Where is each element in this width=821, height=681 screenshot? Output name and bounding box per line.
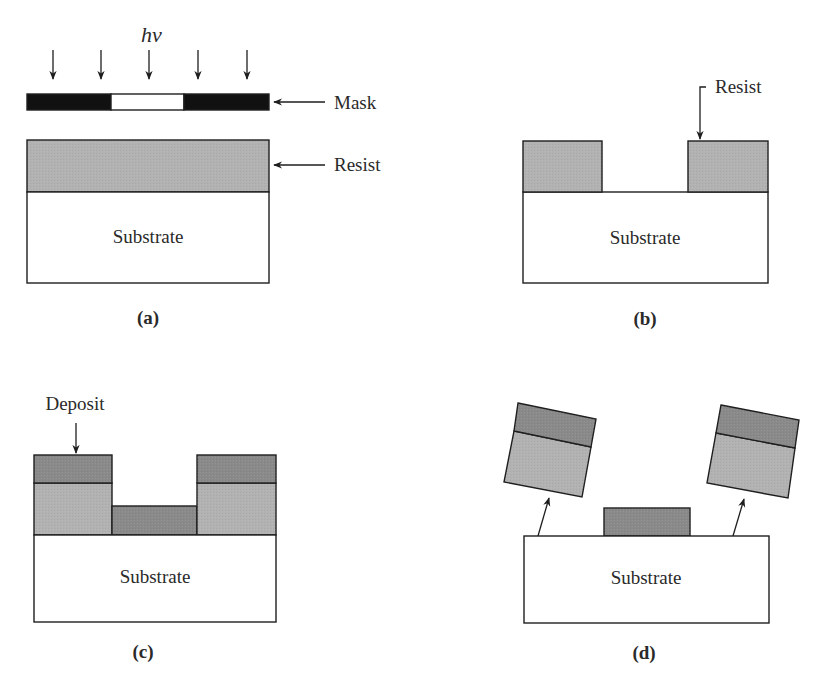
resist-label: Resist — [715, 76, 762, 97]
caption-c: (c) — [132, 641, 153, 663]
light-arrows — [53, 50, 247, 79]
liftoff-arrow-left-icon — [538, 498, 549, 536]
photon-energy-label: hν — [141, 22, 162, 47]
mask-label: Mask — [334, 92, 377, 113]
substrate-label: Substrate — [113, 226, 184, 247]
lifted-block-left — [504, 403, 596, 497]
lithography-liftoff-diagram: hν Mask Resist Substrate (a) Substrate — [0, 0, 821, 681]
deposit-label: Deposit — [45, 393, 105, 414]
mask — [27, 94, 269, 110]
panel-d: Substrate (d) — [504, 403, 799, 664]
caption-b: (b) — [633, 308, 656, 330]
liftoff-arrow-right-icon — [733, 499, 744, 536]
mask-opaque-right — [184, 94, 269, 110]
lifted-block-right — [707, 405, 799, 498]
substrate-label: Substrate — [611, 567, 682, 588]
panel-b: Substrate Resist (b) — [523, 76, 768, 330]
caption-d: (d) — [632, 642, 655, 664]
caption-a: (a) — [137, 307, 159, 329]
substrate-label: Substrate — [120, 566, 191, 587]
panel-c: Deposit Substrate (c) — [34, 393, 276, 663]
resist-pointer-arrow-icon — [700, 87, 706, 139]
substrate-label: Substrate — [610, 227, 681, 248]
mask-opening — [111, 94, 184, 110]
panel-a: hν Mask Resist Substrate (a) — [27, 22, 381, 329]
mask-opaque-left — [27, 94, 111, 110]
resist-label: Resist — [334, 154, 381, 175]
